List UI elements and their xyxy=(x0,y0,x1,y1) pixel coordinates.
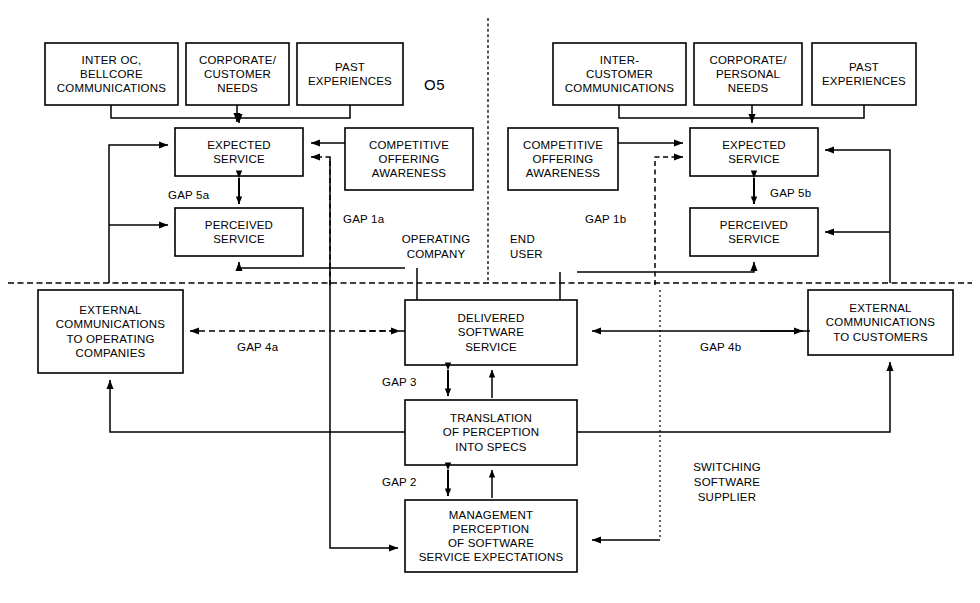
zone-divider-lines xyxy=(8,18,972,540)
connector-past-exp-to-expected xyxy=(239,105,350,118)
label-gap5b: GAP 5b xyxy=(770,186,811,200)
figure-number: O5 xyxy=(424,76,445,93)
box-competitive-offering-right xyxy=(508,128,618,190)
diagram-canvas xyxy=(0,0,980,603)
connector-extcomm-to-expected-left xyxy=(109,145,168,283)
label-gap2: GAP 2 xyxy=(382,475,417,489)
label-gap4b: GAP 4b xyxy=(700,340,741,354)
box-external-comms-customers xyxy=(808,290,953,355)
label-switching-software-supplier: SWITCHING SOFTWARE SUPPLIER xyxy=(672,460,782,505)
box-competitive-offering-left xyxy=(345,128,473,190)
connector-translation-to-extcomm-oc xyxy=(110,380,405,432)
connector-past-exp-to-expected-r xyxy=(754,105,864,118)
box-outlines xyxy=(38,43,953,572)
connector-delivered-to-perceived-right xyxy=(577,262,754,272)
label-gap5a: GAP 5a xyxy=(168,188,209,202)
box-past-experiences-right xyxy=(812,43,916,105)
connector-inter-oc-to-expected xyxy=(111,105,239,118)
connector-inter-customer-to-expected-r xyxy=(619,105,754,118)
box-expected-service-left xyxy=(175,128,303,176)
connector-delivered-to-perceived-left xyxy=(239,262,405,268)
label-gap1a: GAP 1a xyxy=(343,212,384,226)
box-translation-of-perception xyxy=(405,400,577,465)
box-management-perception xyxy=(405,500,577,572)
box-corporate-customer-needs xyxy=(186,43,289,105)
gap-model-diagram: INTER OC, BELLCORE COMMUNICATIONS CORPOR… xyxy=(0,0,980,603)
box-perceived-service-right xyxy=(690,208,818,256)
box-past-experiences-left xyxy=(297,43,403,105)
connector-gap1b-dashed-right xyxy=(655,157,683,285)
connector-translation-to-extcomm-customers xyxy=(577,362,890,432)
label-gap3: GAP 3 xyxy=(382,375,417,389)
label-gap1b: GAP 1b xyxy=(585,212,626,226)
connector-extcustomer-to-expected-right xyxy=(825,150,890,283)
box-inter-customer xyxy=(553,43,686,105)
connector-gap1a-dashed-left xyxy=(311,157,330,285)
label-operating-company: OPERATING COMPANY xyxy=(386,232,486,262)
label-end-user: END USER xyxy=(510,232,570,262)
label-gap4a: GAP 4a xyxy=(237,340,278,354)
connector-lines-center xyxy=(448,370,492,498)
box-perceived-service-left xyxy=(175,208,303,256)
box-corporate-personal-needs xyxy=(694,43,802,105)
box-delivered-software-service xyxy=(405,300,577,365)
box-inter-oc xyxy=(45,43,178,105)
box-external-comms-oc xyxy=(38,290,183,373)
connector-lines-left xyxy=(109,105,417,548)
box-expected-service-right xyxy=(690,128,818,176)
